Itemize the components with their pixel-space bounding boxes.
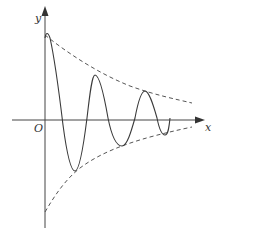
y-axis-arrow-icon bbox=[42, 6, 49, 16]
x-axis-arrow-icon bbox=[195, 117, 205, 124]
origin-label: O bbox=[34, 122, 43, 135]
figure-caption bbox=[95, 226, 150, 232]
x-axis-label: x bbox=[205, 121, 212, 134]
upper-envelope-curve bbox=[45, 35, 192, 103]
damped-oscillation-figure: y x O bbox=[0, 0, 267, 234]
lower-envelope-curve bbox=[45, 127, 192, 212]
y-axis-label: y bbox=[34, 12, 42, 25]
damped-oscillation-curve bbox=[45, 34, 170, 172]
